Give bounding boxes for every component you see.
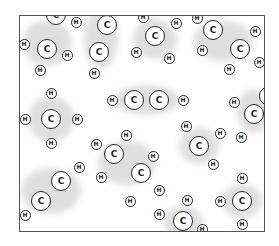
carbon-atom: C [89, 42, 109, 62]
electron-cloud [21, 168, 81, 214]
hydrogen-atom: H [138, 15, 149, 23]
hydrogen-atom: H [96, 172, 107, 183]
hydrogen-atom: H [215, 196, 226, 207]
molecule-diagram: CCHHHHCCHHCHHHHCHCHHHHCHHHHCCHHCHCHCHHCH… [0, 0, 279, 246]
hydrogen-atom: H [171, 18, 182, 29]
carbon-atom: C [145, 26, 165, 46]
hydrogen-atom: H [35, 65, 46, 76]
hydrogen-atom: H [237, 219, 248, 230]
carbon-atom: C [149, 90, 169, 110]
hydrogen-atom: H [236, 132, 247, 143]
carbon-atom: C [41, 109, 61, 129]
hydrogen-atom: H [197, 224, 208, 233]
carbon-atom: C [244, 104, 264, 124]
hydrogen-atom: H [19, 39, 30, 50]
hydrogen-atom: H [229, 97, 240, 108]
hydrogen-atom: H [181, 121, 192, 132]
hydrogen-atom: H [254, 57, 265, 68]
hydrogen-atom: H [125, 196, 136, 207]
hydrogen-atom: H [224, 64, 235, 75]
carbon-atom: C [203, 20, 223, 40]
hydrogen-atom: H [121, 130, 132, 141]
carbon-atom: C [131, 163, 151, 183]
hydrogen-atom: H [89, 68, 100, 79]
hydrogen-atom: H [20, 210, 31, 221]
hydrogen-atom: H [62, 50, 73, 61]
hydrogen-atom: H [20, 114, 31, 125]
hydrogen-atom: H [208, 159, 219, 170]
hydrogen-atom: H [154, 209, 165, 220]
carbon-atom: C [230, 39, 250, 59]
hydrogen-atom: H [164, 53, 175, 64]
hydrogen-atom: H [215, 128, 226, 139]
carbon-atom: C [31, 191, 51, 211]
hydrogen-atom: H [192, 15, 203, 24]
carbon-atom: C [189, 136, 209, 156]
hydrogen-atom: H [250, 26, 261, 37]
electron-cloud [113, 85, 179, 115]
container-frame: CCHHHHCCHHCHHHHCHCHHHHCHHHHCCHHCHCHCHHCH… [19, 15, 265, 232]
carbon-atom: C [173, 211, 193, 231]
hydrogen-atom: H [197, 45, 208, 56]
carbon-atom: C [232, 191, 252, 211]
hydrogen-atom: H [154, 185, 165, 196]
carbon-atom: C [124, 90, 144, 110]
carbon-atom: C [104, 144, 124, 164]
hydrogen-atom: H [71, 17, 82, 28]
carbon-atom: C [97, 15, 117, 35]
carbon-atom: C [51, 171, 71, 191]
hydrogen-atom: H [237, 173, 248, 184]
hydrogen-atom: H [107, 95, 118, 106]
hydrogen-atom: H [74, 162, 85, 173]
hydrogen-atom: H [131, 47, 142, 58]
hydrogen-atom: H [91, 139, 102, 150]
hydrogen-atom: H [178, 95, 189, 106]
hydrogen-atom: H [46, 88, 57, 99]
hydrogen-atom: H [148, 151, 159, 162]
hydrogen-atom: H [182, 195, 193, 206]
hydrogen-atom: H [46, 138, 57, 149]
hydrogen-atom: H [72, 114, 83, 125]
carbon-atom: C [37, 39, 57, 59]
